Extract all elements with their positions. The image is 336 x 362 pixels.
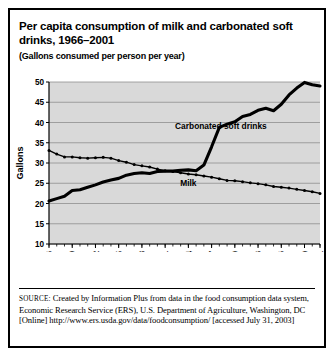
- y-tick-label: 30: [35, 159, 45, 168]
- x-tick-label: 1996: [277, 251, 286, 252]
- series-point: [109, 157, 112, 160]
- y-tick-label: 15: [35, 220, 45, 229]
- series-point: [63, 155, 66, 158]
- x-tick-label: 2001: [316, 251, 325, 252]
- y-tick-label: 10: [35, 240, 45, 249]
- y-tick-label: 20: [35, 200, 45, 209]
- series-point: [187, 172, 190, 175]
- series-point: [140, 164, 143, 167]
- series-point: [125, 161, 128, 164]
- series-point: [148, 166, 151, 169]
- series-point: [288, 187, 291, 190]
- series-point: [78, 156, 81, 159]
- series-point: [195, 173, 198, 176]
- series-point: [295, 188, 298, 191]
- figure-container: Per capita consumption of milk and carbo…: [8, 8, 326, 348]
- x-tick-label: 1978: [138, 251, 147, 252]
- source-body: Created by Information Plus from data in…: [19, 293, 309, 325]
- series-point: [311, 190, 314, 193]
- figure-title: Per capita consumption of milk and carbo…: [19, 20, 315, 47]
- series-point: [179, 171, 182, 174]
- x-tick-label: 1993: [254, 251, 263, 252]
- series-point: [164, 169, 167, 172]
- chart-plot-area: 1015202530354045501966196919721975197819…: [10, 62, 328, 252]
- x-tick-label: 1990: [231, 251, 240, 252]
- series-point: [249, 181, 252, 184]
- series-point: [210, 176, 213, 179]
- y-tick-label: 40: [35, 119, 45, 128]
- series-annotation-milk: Milk: [180, 178, 197, 188]
- series-point: [202, 174, 205, 177]
- divider-rule: [19, 288, 315, 289]
- series-point: [226, 179, 229, 182]
- x-tick-label: 1981: [161, 251, 170, 252]
- series-point: [280, 186, 283, 189]
- series-point: [102, 156, 105, 159]
- y-tick-label: 45: [35, 98, 45, 107]
- series-point: [241, 180, 244, 183]
- series-point: [86, 157, 89, 160]
- x-tick-label: 1999: [301, 251, 310, 252]
- series-point: [156, 168, 159, 171]
- series-point: [133, 163, 136, 166]
- series-point: [257, 182, 260, 185]
- figure-subtitle: (Gallons consumed per person per year): [19, 50, 315, 62]
- series-point: [303, 189, 306, 192]
- x-tick-label: 1969: [68, 251, 77, 252]
- series-point: [264, 183, 267, 186]
- x-tick-label: 1966: [45, 251, 54, 252]
- line-chart: 1015202530354045501966196919721975197819…: [10, 62, 328, 252]
- x-tick-label: 1972: [92, 251, 101, 252]
- series-point: [48, 149, 51, 152]
- series-point: [117, 159, 120, 162]
- y-tick-label: 50: [35, 78, 45, 87]
- source-note: SOURCE: Created by Information Plus from…: [19, 288, 315, 326]
- y-tick-label: 25: [35, 179, 45, 188]
- source-label: SOURCE:: [19, 295, 51, 303]
- x-tick-label: 1975: [115, 251, 124, 252]
- series-point: [71, 155, 74, 158]
- series-point: [272, 185, 275, 188]
- series-annotation-soft-drinks: Carbonated soft drinks: [175, 121, 267, 131]
- y-tick-label: 35: [35, 139, 45, 148]
- series-point: [171, 170, 174, 173]
- source-text: SOURCE: Created by Information Plus from…: [19, 293, 315, 326]
- x-tick-label: 1987: [208, 251, 217, 252]
- series-point: [319, 192, 322, 195]
- y-axis-title: Gallons: [15, 146, 25, 179]
- series-point: [94, 156, 97, 159]
- x-tick-label: 1984: [185, 251, 194, 252]
- series-point: [218, 177, 221, 180]
- series-point: [233, 179, 236, 182]
- series-point: [55, 153, 58, 156]
